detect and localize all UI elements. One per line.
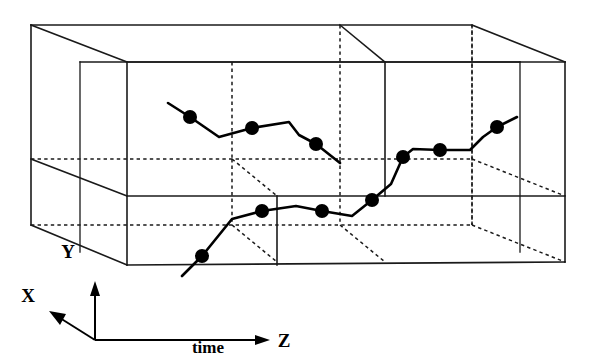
box-inner-top-shelf bbox=[80, 62, 520, 252]
cell2-bottom-receding bbox=[340, 225, 385, 262]
z-axis-label: Z bbox=[278, 330, 291, 351]
track-dot bbox=[490, 120, 504, 134]
x-axis-label: X bbox=[21, 285, 35, 306]
cell-divider-one bbox=[232, 62, 277, 265]
box-edge-bottom-right-receding bbox=[472, 225, 565, 262]
box-outer-solid-edges bbox=[31, 25, 565, 265]
tracking-volume-diagram: Y X Z time bbox=[0, 0, 593, 359]
track-dot bbox=[433, 143, 447, 157]
layer-divider-right-receding bbox=[472, 159, 565, 196]
cell1-top-receding bbox=[232, 159, 277, 196]
x-axis-line bbox=[60, 318, 95, 340]
track-dot bbox=[195, 249, 209, 263]
figure-root: Y X Z time bbox=[0, 0, 593, 359]
track-dot bbox=[309, 137, 323, 151]
cell2-top-receding bbox=[340, 25, 385, 62]
box-edge-top-right-receding bbox=[472, 25, 565, 62]
box-bottom-hidden-edges bbox=[31, 25, 565, 262]
cell-divider-two bbox=[340, 25, 385, 262]
time-caption-label: time bbox=[192, 338, 225, 357]
layer-divider-left-receding bbox=[31, 159, 127, 196]
upper-track-segment bbox=[168, 103, 340, 163]
track-dot bbox=[183, 110, 197, 124]
y-axis-arrowhead bbox=[90, 281, 100, 296]
box-layer-divider bbox=[31, 159, 565, 196]
x-axis-arrowhead bbox=[49, 311, 66, 325]
box-edge-bottom-left-receding bbox=[31, 225, 127, 265]
track-dot bbox=[315, 204, 329, 218]
y-axis-label: Y bbox=[61, 241, 75, 262]
box-edge-top-left-receding bbox=[31, 25, 127, 62]
track-dot bbox=[245, 121, 259, 135]
axis-triad: Y X Z time bbox=[21, 241, 290, 357]
track-dot bbox=[396, 150, 410, 164]
z-axis-arrowhead bbox=[255, 335, 270, 345]
track-dot bbox=[255, 204, 269, 218]
track-dot bbox=[365, 193, 379, 207]
cell1-bottom-receding bbox=[232, 225, 277, 262]
